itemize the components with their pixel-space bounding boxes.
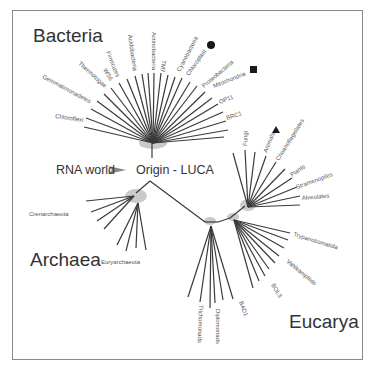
branch-eucarya-2 bbox=[218, 218, 230, 222]
taxon-label: TM7 bbox=[159, 60, 167, 73]
domain-label-bacteria: Bacteria bbox=[33, 25, 103, 46]
taxon-label: Vahlkampfiids bbox=[285, 258, 317, 286]
taxon-label: Trypanosomatida bbox=[293, 231, 340, 250]
taxon-label: BAD1 bbox=[238, 300, 249, 317]
eucarya-mid-branches bbox=[234, 220, 290, 288]
taxon-label: BOL3 bbox=[270, 282, 284, 299]
taxon-label: Gemmatimonadetes bbox=[42, 74, 93, 105]
taxon-label: Crenarchaeota bbox=[29, 211, 69, 217]
taxon-label: Trichomonads bbox=[197, 305, 204, 343]
taxon-label: OP11 bbox=[218, 94, 235, 105]
archaea-branches bbox=[86, 196, 146, 251]
taxon-label: Animals bbox=[262, 131, 276, 153]
mitochondria-square-icon bbox=[250, 66, 257, 73]
phylogenetic-tree: Bacteria Archaea Eucarya RNA world Origi… bbox=[0, 0, 372, 371]
chloroplast-circle-icon bbox=[207, 41, 215, 49]
rna-world-label: RNA world bbox=[56, 163, 115, 177]
taxon-label: Actinobacteria bbox=[151, 32, 157, 71]
domain-label-archaea: Archaea bbox=[30, 249, 101, 270]
branch-root-eucarya bbox=[150, 181, 205, 222]
taxon-label: BRC1 bbox=[225, 110, 243, 121]
taxon-label: Choanoflagellates bbox=[275, 118, 306, 162]
domain-label-eucarya: Eucarya bbox=[289, 311, 359, 332]
taxon-label: Acidobacteria bbox=[127, 34, 138, 71]
eucarya-node-halo bbox=[227, 213, 239, 221]
taxon-label: Plants bbox=[289, 163, 306, 177]
eucarya-basal-branches bbox=[188, 226, 233, 308]
taxon-label: Euryarchaeota bbox=[101, 259, 141, 265]
eucarya-basal-node-halo bbox=[204, 217, 216, 225]
taxon-label: Diplomonads bbox=[215, 309, 221, 344]
animals-triangle-icon bbox=[272, 126, 280, 133]
taxon-label: Fungi bbox=[242, 131, 249, 146]
origin-luca-label: Origin - LUCA bbox=[136, 163, 214, 177]
eucarya-crown-branches bbox=[233, 150, 300, 207]
taxon-label: Stramenopiles bbox=[295, 171, 333, 190]
taxon-label: Chloroflexi bbox=[55, 113, 84, 123]
taxon-label: Thermotogae bbox=[77, 60, 108, 89]
taxon-label: Alveolates bbox=[302, 193, 330, 201]
